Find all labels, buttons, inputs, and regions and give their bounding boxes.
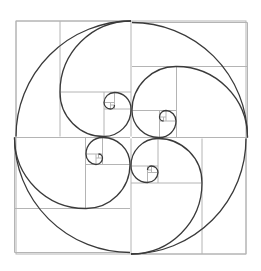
spiral-arm-4 <box>15 137 131 252</box>
golden-spiral-diagram <box>0 0 261 271</box>
spiral-arm-1 <box>16 21 131 137</box>
spiral-arm-3 <box>131 139 246 255</box>
spiral-arm-2 <box>132 23 248 138</box>
